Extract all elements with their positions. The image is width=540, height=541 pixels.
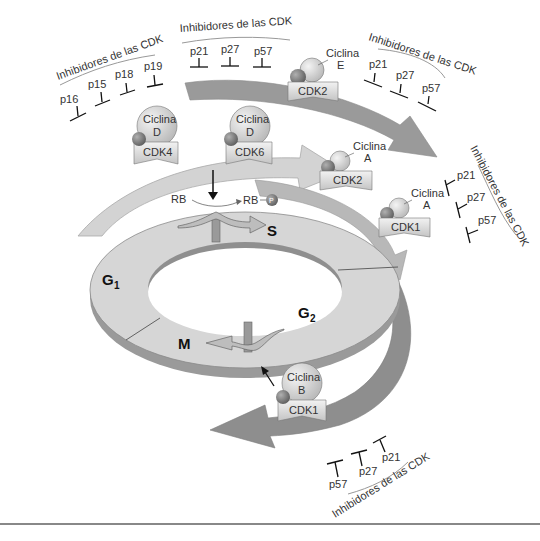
- cell-cycle-diagram: S G 1 G 2 M RB RB P Ciclina D CDK4 Cicli…: [0, 0, 540, 541]
- phase-label-s: S: [267, 222, 277, 239]
- bottom-rule: [0, 523, 540, 525]
- svg-text:2: 2: [310, 313, 316, 324]
- svg-text:p21: p21: [382, 451, 400, 463]
- svg-text:p27: p27: [467, 191, 485, 203]
- svg-text:1: 1: [114, 280, 120, 291]
- svg-text:Ciclina: Ciclina: [287, 371, 321, 383]
- svg-text:CDK2: CDK2: [298, 85, 327, 97]
- svg-text:p21: p21: [369, 58, 387, 70]
- complex-cdk2-cyclin-a: Ciclina A CDK2: [320, 140, 387, 190]
- inhibitor-group-top: Inhibidores de las CDK p21 p27 p57: [179, 14, 293, 67]
- diagram-canvas: S G 1 G 2 M RB RB P Ciclina D CDK4 Cicli…: [0, 0, 540, 541]
- svg-text:p27: p27: [359, 465, 377, 477]
- svg-text:p27: p27: [221, 43, 239, 55]
- svg-text:p57: p57: [254, 45, 272, 57]
- svg-text:CDK1: CDK1: [289, 404, 318, 416]
- complex-cdk1-cyclin-a: Ciclina A CDK1: [379, 187, 445, 237]
- svg-text:Ciclina: Ciclina: [143, 113, 177, 125]
- svg-text:CDK1: CDK1: [391, 221, 420, 233]
- svg-text:p27: p27: [396, 69, 414, 81]
- svg-text:p19: p19: [144, 60, 162, 72]
- svg-text:A: A: [423, 199, 431, 211]
- svg-text:p21: p21: [457, 169, 475, 181]
- svg-text:Ciclina: Ciclina: [236, 113, 270, 125]
- svg-text:B: B: [298, 384, 305, 396]
- svg-text:p15: p15: [88, 78, 106, 90]
- svg-text:p18: p18: [115, 68, 133, 80]
- svg-text:Ciclina: Ciclina: [353, 140, 387, 152]
- phase-label-m: M: [178, 335, 191, 352]
- svg-text:A: A: [364, 152, 372, 164]
- svg-text:Ciclina: Ciclina: [326, 47, 360, 59]
- inhibitor-group-upper-right: Inhibidores de las CDK p21 p27 p57: [364, 30, 479, 111]
- svg-text:CDK2: CDK2: [333, 174, 362, 186]
- complex-cdk2-cyclin-e: Ciclina E CDK2: [288, 47, 360, 101]
- svg-text:D: D: [153, 126, 161, 138]
- inhibitor-group-bottom: Inhibidores de las CDK p57 p27 p21: [327, 436, 432, 520]
- svg-text:p57: p57: [478, 214, 496, 226]
- kinase-ball: [132, 132, 146, 146]
- svg-text:E: E: [337, 59, 344, 71]
- svg-text:Ciclina: Ciclina: [411, 187, 445, 199]
- svg-text:G: G: [298, 304, 310, 321]
- rb-label: RB: [171, 193, 186, 205]
- svg-text:D: D: [246, 126, 254, 138]
- rb-p-label: RB: [243, 194, 258, 206]
- svg-text:G: G: [102, 271, 114, 288]
- svg-text:Inhibidores de las CDK: Inhibidores de las CDK: [179, 14, 293, 34]
- svg-text:CDK6: CDK6: [235, 146, 264, 158]
- svg-text:p21: p21: [190, 45, 208, 57]
- complex-cdk6-cyclin-d: Ciclina D CDK6: [224, 106, 272, 164]
- complex-cdk4-cyclin-d: Ciclina D CDK4: [132, 106, 178, 164]
- svg-text:P: P: [269, 197, 274, 204]
- svg-text:CDK4: CDK4: [143, 146, 172, 158]
- svg-text:p57: p57: [329, 478, 347, 490]
- svg-text:p16: p16: [60, 93, 78, 105]
- cell-cycle-ring: [90, 212, 400, 378]
- arrow-down-icon: [208, 192, 218, 200]
- svg-text:p57: p57: [422, 82, 440, 94]
- inhibitor-group-right: Inhibidores de las CDK p21 p27 p57: [445, 143, 532, 249]
- svg-text:Inhibidores de las CDK: Inhibidores de las CDK: [55, 32, 165, 82]
